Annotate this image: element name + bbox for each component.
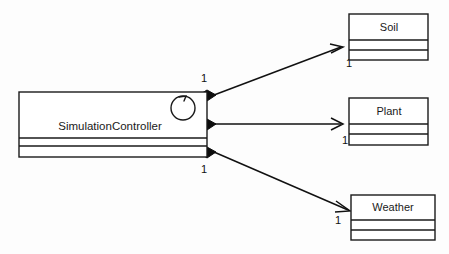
class-box-simulationcontroller[interactable]: SimulationController bbox=[19, 92, 207, 157]
class-box-weather[interactable]: Weather bbox=[351, 195, 435, 240]
target-multiplicity-weather: 1 bbox=[335, 214, 341, 226]
class-name-plant: Plant bbox=[376, 105, 401, 117]
class-name-weather: Weather bbox=[372, 201, 414, 213]
class-box-soil[interactable]: Soil bbox=[349, 14, 428, 60]
class-name-soil: Soil bbox=[380, 21, 398, 33]
class-name-simulationcontroller: SimulationController bbox=[58, 120, 162, 132]
class-box-plant[interactable]: Plant bbox=[349, 98, 428, 145]
source-multiplicity-soil: 1 bbox=[201, 72, 207, 84]
target-multiplicity-plant: 1 bbox=[342, 134, 348, 146]
source-multiplicity-weather: 1 bbox=[201, 163, 207, 175]
uml-class-diagram: 1 1 1 1 1 1 SimulationController Soil bbox=[0, 0, 449, 254]
